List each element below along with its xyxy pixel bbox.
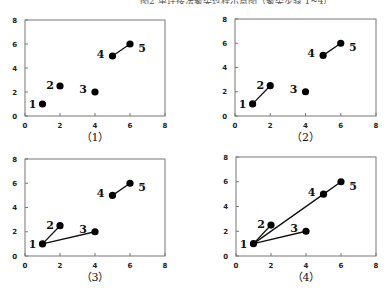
y-tick-label: 2	[12, 228, 17, 236]
data-point-2	[267, 82, 274, 89]
point-label-5: 5	[349, 41, 357, 54]
plot-frame	[25, 20, 165, 116]
x-tick-label: 6	[339, 262, 344, 270]
point-label-5: 5	[138, 181, 146, 194]
y-tick-label: 4	[222, 64, 227, 72]
data-point-1	[39, 100, 46, 107]
y-tick-label: 6	[222, 40, 227, 48]
data-point-3	[302, 88, 309, 95]
x-tick-label: 2	[269, 262, 274, 270]
panel-caption: （2）	[291, 131, 320, 144]
y-tick-label: 8	[12, 17, 17, 25]
data-point-5	[126, 180, 133, 187]
point-label-2: 2	[46, 79, 54, 92]
data-point-5	[337, 40, 344, 47]
point-label-3: 3	[79, 223, 87, 236]
y-tick-label: 4	[12, 65, 17, 73]
data-point-4	[109, 192, 116, 199]
point-label-1: 1	[29, 98, 37, 111]
data-point-2	[56, 82, 63, 89]
x-tick-label: 4	[304, 262, 309, 270]
x-tick-label: 0	[234, 262, 239, 270]
data-point-1	[250, 240, 257, 247]
y-tick-label: 6	[12, 41, 17, 49]
x-tick-label: 8	[374, 262, 379, 270]
y-tick-label: 2	[222, 88, 227, 96]
y-tick-label: 8	[222, 16, 227, 24]
chart-panel-4: 024680246812345（4）	[223, 154, 378, 285]
chart-panel-1: 024680246812345（1）	[12, 17, 167, 145]
y-tick-label: 4	[12, 204, 17, 212]
point-label-3: 3	[79, 83, 87, 96]
data-point-3	[302, 228, 309, 235]
x-tick-label: 2	[268, 122, 273, 130]
point-label-2: 2	[46, 219, 54, 232]
x-tick-label: 0	[23, 262, 28, 270]
x-tick-label: 4	[303, 122, 308, 130]
point-label-4: 4	[308, 186, 316, 199]
y-tick-label: 6	[223, 178, 228, 186]
x-tick-label: 8	[374, 122, 379, 130]
data-point-3	[91, 228, 98, 235]
data-point-5	[126, 40, 133, 47]
data-point-3	[91, 88, 98, 95]
data-point-4	[320, 191, 327, 198]
x-tick-label: 4	[93, 262, 98, 270]
point-label-3: 3	[290, 83, 298, 96]
x-tick-label: 8	[163, 262, 168, 270]
panel-caption: （3）	[81, 271, 110, 284]
cluster-link-1-3	[43, 232, 96, 244]
data-point-2	[56, 222, 63, 229]
data-point-5	[337, 178, 344, 185]
y-tick-label: 2	[12, 89, 17, 97]
x-tick-label: 2	[58, 262, 63, 270]
point-label-4: 4	[97, 187, 105, 200]
x-tick-label: 4	[93, 122, 98, 130]
plot-frame	[25, 159, 165, 256]
x-tick-label: 2	[58, 122, 63, 130]
point-label-1: 1	[239, 98, 247, 111]
y-tick-label: 2	[223, 228, 228, 236]
data-point-4	[320, 52, 327, 59]
x-tick-label: 0	[233, 122, 238, 130]
panel-caption: （4）	[292, 271, 321, 284]
y-tick-label: 0	[12, 253, 17, 261]
data-point-2	[267, 221, 274, 228]
y-tick-label: 0	[223, 253, 228, 261]
plot-frame	[235, 19, 376, 116]
x-tick-label: 0	[23, 122, 28, 130]
point-label-5: 5	[138, 42, 146, 55]
point-label-3: 3	[290, 222, 298, 235]
x-tick-label: 6	[128, 122, 133, 130]
data-point-1	[249, 100, 256, 107]
point-label-2: 2	[257, 218, 265, 231]
y-tick-label: 8	[223, 154, 228, 162]
cluster-figure: 024680246812345（1）024680246812345（2）0246…	[0, 0, 386, 296]
panel-caption: （1）	[81, 131, 110, 144]
y-tick-label: 8	[12, 156, 17, 164]
data-point-4	[109, 52, 116, 59]
point-label-4: 4	[307, 47, 315, 60]
y-tick-label: 4	[223, 203, 228, 211]
data-point-1	[39, 240, 46, 247]
chart-panel-3: 024680246812345（3）	[12, 156, 167, 285]
x-tick-label: 8	[163, 122, 168, 130]
y-tick-label: 0	[12, 113, 17, 121]
y-tick-label: 0	[222, 113, 227, 121]
point-label-1: 1	[240, 238, 248, 251]
x-tick-label: 6	[128, 262, 133, 270]
point-label-5: 5	[349, 180, 357, 193]
x-tick-label: 6	[338, 122, 343, 130]
point-label-4: 4	[97, 48, 105, 61]
point-label-1: 1	[29, 238, 37, 251]
chart-panel-2: 024680246812345（2）	[222, 16, 378, 145]
point-label-2: 2	[256, 79, 264, 92]
y-tick-label: 6	[12, 180, 17, 188]
